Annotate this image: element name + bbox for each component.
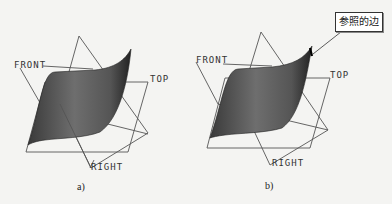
figure-b: FRONT TOP RIGHT b) xyxy=(196,28,349,192)
figure-canvas: FRONT TOP RIGHT a) FRONT TOP RIGHT b) xyxy=(0,0,392,204)
callout-reference-edge: 参照的边 xyxy=(335,12,383,32)
label-front-b: FRONT xyxy=(196,55,228,65)
caption-b: b) xyxy=(265,180,273,192)
figure-a: FRONT TOP RIGHT a) xyxy=(14,36,169,193)
label-right-b: RIGHT xyxy=(272,158,304,168)
label-top-a: TOP xyxy=(150,74,169,84)
caption-a: a) xyxy=(77,181,85,193)
label-top-b: TOP xyxy=(330,70,349,80)
label-front-a: FRONT xyxy=(14,60,46,70)
label-right-a: RIGHT xyxy=(91,162,123,172)
